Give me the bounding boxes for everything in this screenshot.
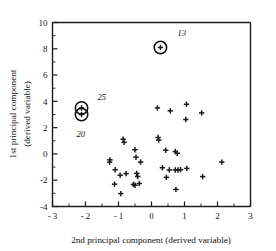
x-tick-label: 3: [248, 211, 253, 221]
data-point: [155, 105, 160, 110]
x-tick-label: 0: [149, 211, 154, 221]
data-point: [164, 175, 169, 180]
data-point: [184, 102, 189, 107]
data-markers: [79, 45, 225, 197]
x-tick-label: 1: [182, 211, 187, 221]
data-point: [173, 187, 178, 192]
data-point: [219, 159, 224, 164]
x-tick-label: - 1: [114, 211, 124, 221]
y-tick-label: 10: [39, 18, 49, 28]
data-point: [168, 108, 173, 113]
data-point: [112, 181, 117, 186]
outlier-label: 20: [77, 129, 86, 139]
y-axis-title-line2: (derived variable): [22, 81, 32, 147]
data-point: [183, 117, 188, 122]
data-point: [132, 147, 137, 152]
data-point: [113, 167, 118, 172]
data-point: [123, 171, 128, 176]
data-point: [135, 174, 140, 179]
point-labels: 132520: [77, 28, 186, 138]
data-point: [158, 45, 163, 50]
x-tick-label: 2: [215, 211, 220, 221]
tick-labels: - 3- 2- 10123-4-20246810: [39, 18, 254, 221]
data-point: [160, 165, 165, 170]
data-point: [118, 191, 123, 196]
data-point: [163, 148, 168, 153]
data-point: [121, 140, 126, 145]
y-tick-label: 8: [43, 44, 48, 54]
y-tick-label: 0: [43, 149, 48, 159]
outlier-label: 25: [98, 92, 107, 102]
data-point: [138, 159, 143, 164]
data-point: [134, 171, 139, 176]
y-tick-label: -4: [40, 202, 48, 212]
data-point: [133, 155, 138, 160]
y-tick-label: -2: [40, 175, 48, 185]
data-point: [184, 166, 189, 171]
y-tick-label: 2: [43, 123, 48, 133]
x-axis-title: 2nd principal component (derived variabl…: [71, 235, 231, 245]
y-axis-title-line1: 1st principal component: [8, 69, 18, 158]
scatter-plot-figure: 2nd principal component (derived variabl…: [0, 0, 276, 251]
data-point: [199, 110, 204, 115]
plot-canvas: 2nd principal component (derived variabl…: [0, 0, 276, 251]
data-point: [200, 174, 205, 179]
highlight-rings: [75, 41, 166, 120]
data-point: [120, 137, 125, 142]
x-tick-label: - 2: [81, 211, 91, 221]
y-tick-label: 6: [43, 70, 48, 80]
data-point: [167, 167, 172, 172]
x-tick-label: - 3: [48, 211, 58, 221]
outlier-label: 13: [177, 28, 186, 38]
data-point: [117, 173, 122, 178]
y-tick-label: 4: [43, 97, 48, 107]
